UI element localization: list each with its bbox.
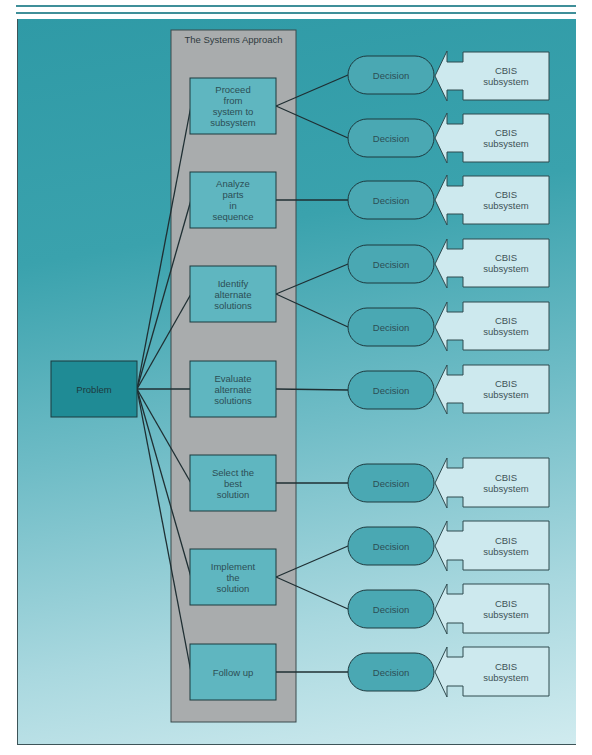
- cbis-label-7: CBIS subsystem: [463, 458, 549, 507]
- step-label-3: Identify alternate solutions: [190, 266, 276, 322]
- decision-label-3: Decision: [348, 181, 434, 219]
- cbis-label-1: CBIS subsystem: [463, 52, 549, 100]
- decision-label-10: Decision: [348, 653, 434, 691]
- cbis-label-5: CBIS subsystem: [463, 302, 549, 350]
- cbis-label-2: CBIS subsystem: [463, 114, 549, 162]
- step-label-4: Evaluate alternate solutions: [190, 361, 276, 417]
- step-label-6: Implement the solution: [190, 549, 276, 605]
- decision-label-4: Decision: [348, 245, 434, 283]
- problem-label: Problem: [51, 361, 137, 417]
- cbis-label-4: CBIS subsystem: [463, 239, 549, 287]
- cbis-label-9: CBIS subsystem: [463, 584, 549, 633]
- decision-label-6: Decision: [348, 371, 434, 409]
- decision-label-5: Decision: [348, 308, 434, 346]
- decision-label-7: Decision: [348, 464, 434, 502]
- systems-approach-title: The Systems Approach: [171, 34, 296, 45]
- decision-label-8: Decision: [348, 527, 434, 565]
- step-label-1: Proceed from system to subsystem: [190, 78, 276, 134]
- cbis-label-10: CBIS subsystem: [463, 647, 549, 696]
- decision-label-2: Decision: [348, 119, 434, 157]
- cbis-label-6: CBIS subsystem: [463, 365, 549, 413]
- decision-label-9: Decision: [348, 590, 434, 628]
- step-label-2: Analyze parts in sequence: [190, 172, 276, 228]
- step-label-5: Select the best solution: [190, 455, 276, 511]
- cbis-label-8: CBIS subsystem: [463, 521, 549, 570]
- cbis-label-3: CBIS subsystem: [463, 176, 549, 224]
- step-label-7: Follow up: [190, 644, 276, 700]
- decision-label-1: Decision: [348, 56, 434, 94]
